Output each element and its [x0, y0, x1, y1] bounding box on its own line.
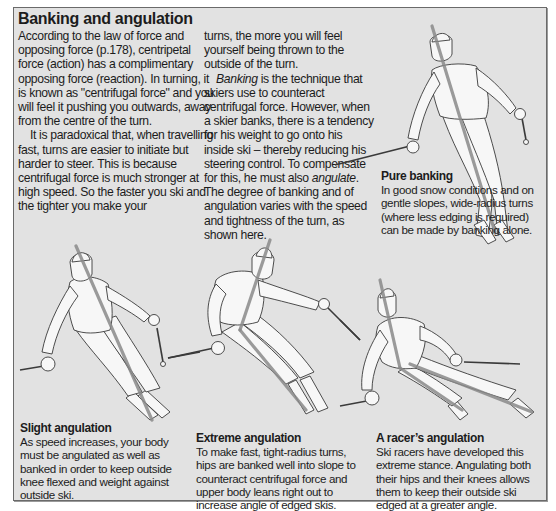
- caption-pure-banking: Pure banking In good snow conditions and…: [381, 170, 546, 236]
- caption-title: Pure banking: [381, 170, 546, 183]
- caption-text: To make fast, tight-radius turns, hips a…: [196, 445, 356, 511]
- caption-extreme-angulation: Extreme angulation To make fast, tight-r…: [196, 432, 366, 511]
- caption-slight-angulation: Slight angulation As speed increases, yo…: [20, 422, 180, 501]
- caption-text: In good snow conditions and on gentle sl…: [381, 183, 534, 236]
- caption-text: Ski racers have developed this extreme s…: [376, 445, 531, 511]
- caption-racers-angulation: A racer’s angulation Ski racers have dev…: [376, 432, 541, 511]
- caption-title: Extreme angulation: [196, 432, 366, 445]
- caption-title: Slight angulation: [20, 422, 180, 435]
- caption-title: A racer’s angulation: [376, 432, 541, 445]
- caption-text: As speed increases, your body must be an…: [20, 435, 172, 501]
